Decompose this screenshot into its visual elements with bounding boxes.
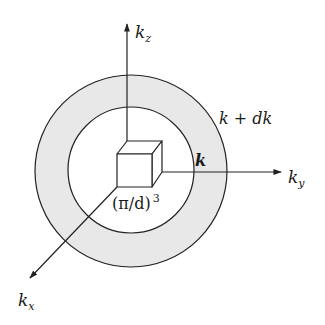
kx-label: kx (18, 290, 35, 313)
kz-label: kz (135, 22, 151, 45)
inner-sphere-label: k (195, 151, 206, 170)
k-space-shell-diagram: kz ky kx k + dk k (π/d)3 (0, 0, 325, 325)
outer-sphere-label: k + dk (219, 109, 272, 128)
ky-label: ky (288, 167, 305, 190)
unit-cell-cube (117, 141, 162, 187)
